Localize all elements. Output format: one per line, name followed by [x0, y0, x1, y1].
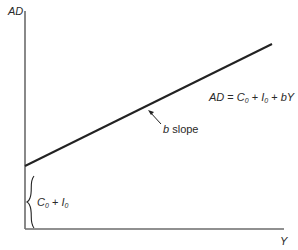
equation-plus2: +	[268, 91, 281, 103]
aggregate-demand-diagram	[0, 0, 298, 250]
equation-plus1: +	[249, 91, 262, 103]
equation-eq: =	[224, 91, 237, 103]
intercept-i-sub: 0	[64, 202, 68, 209]
slope-label: b slope	[163, 124, 198, 135]
aggregate-demand-line	[25, 44, 272, 166]
intercept-c: C	[37, 196, 45, 208]
equation-by: bY	[281, 91, 294, 103]
x-axis-label-text: Y	[280, 235, 287, 247]
equation-lhs: AD	[209, 91, 224, 103]
line-equation: AD = C0 + I0 + bY	[209, 92, 294, 104]
y-axis-label: AD	[8, 6, 23, 17]
equation-c: C	[237, 91, 245, 103]
intercept-label: C0 + I0	[37, 197, 68, 209]
intercept-plus: +	[49, 196, 62, 208]
slope-arrow-icon	[148, 110, 161, 124]
x-axis-label: Y	[280, 236, 287, 247]
y-axis-label-text: AD	[8, 5, 23, 17]
intercept-brace-icon	[27, 176, 34, 228]
slope-label-text: slope	[169, 123, 198, 135]
